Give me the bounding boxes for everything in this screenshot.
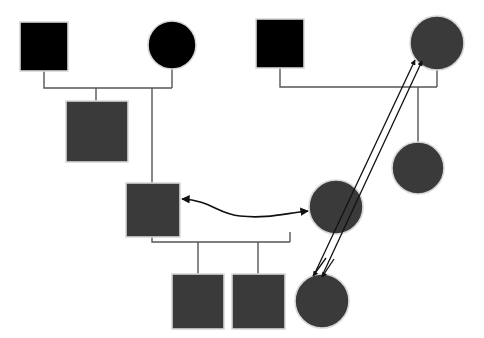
curved-double-headed-arrow-annotation[interactable] (182, 199, 308, 217)
curved-arrow-path (182, 199, 308, 217)
individual-circle-i2[interactable] (148, 21, 196, 69)
individual-circle-iii3[interactable] (295, 274, 349, 328)
individual-square-iii1[interactable] (172, 274, 224, 329)
individual-square-iii2[interactable] (232, 274, 285, 329)
individual-square-ii1[interactable] (66, 101, 128, 162)
pedigree-diagram (0, 0, 484, 338)
marriage-line-u2 (280, 68, 437, 87)
pedigree-canvas-svg (0, 0, 484, 338)
individual-circle-i4[interactable] (410, 16, 464, 70)
individual-square-i3[interactable] (256, 19, 304, 68)
union-line-u3 (152, 232, 290, 274)
individual-square-ii2[interactable] (126, 183, 180, 237)
marriage-line-u1 (44, 71, 172, 88)
individual-circle-ii4[interactable] (392, 142, 444, 194)
individual-square-i1[interactable] (20, 22, 68, 71)
